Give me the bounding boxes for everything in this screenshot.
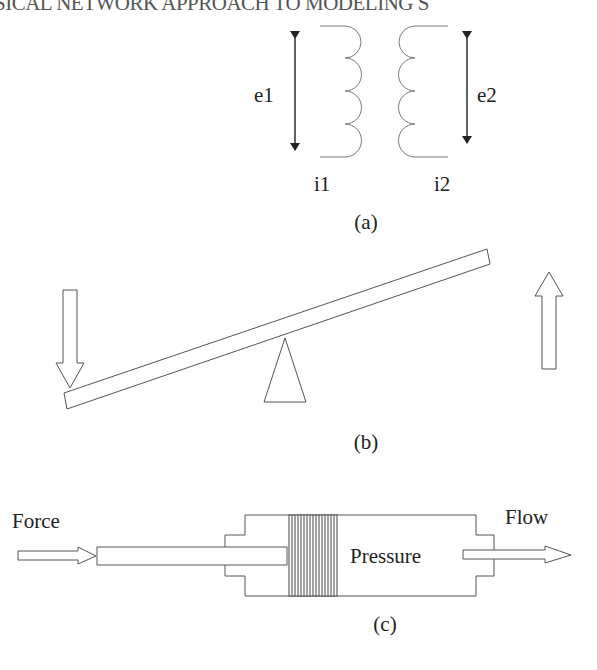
label-i1: i1 (314, 172, 330, 196)
label-e2: e2 (477, 83, 497, 107)
label-pressure: Pressure (350, 544, 421, 568)
secondary-coil-icon (399, 26, 449, 157)
label-i2: i2 (434, 172, 450, 196)
label-flow: Flow (505, 505, 549, 529)
panel-a-transformer (295, 26, 467, 157)
panel-b-lever (56, 249, 563, 409)
flow-output-arrow-icon (463, 546, 571, 563)
figure-canvas: e1 e2 i1 i2 (a) (b) Force Pressure Flow … (0, 0, 597, 670)
piston-head (289, 515, 337, 596)
force-input-arrow-icon (18, 547, 96, 564)
caption-c: (c) (373, 612, 396, 636)
primary-coil-icon (320, 26, 362, 157)
caption-a: (a) (354, 210, 377, 234)
label-e1: e1 (254, 83, 274, 107)
piston-rod (97, 547, 287, 565)
up-force-arrow-icon (535, 272, 563, 369)
caption-b: (b) (354, 430, 379, 454)
panel-c-piston (18, 515, 571, 596)
down-force-arrow-icon (56, 290, 84, 388)
fulcrum-icon (264, 338, 306, 402)
label-force: Force (12, 509, 60, 533)
